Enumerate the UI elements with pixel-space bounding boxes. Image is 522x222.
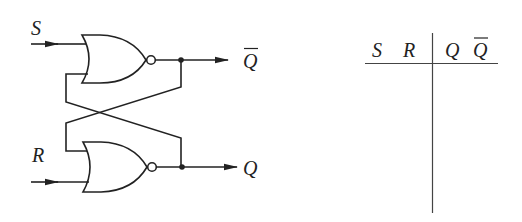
nor-gate-bottom-body [83,142,147,192]
sr-latch-figure: S Q Q R S R Q Q [0,0,522,222]
table-header-q: Q [445,39,460,61]
truth-table: S R Q Q [365,33,498,213]
output-q: Q [157,157,259,179]
table-header-s: S [372,39,382,61]
table-header-q-bar: Q [473,39,488,61]
output-q-bar-label: Q [243,50,258,72]
output-q-label: Q [243,157,258,179]
table-header-r: R [402,39,415,61]
nor-gate-top [82,35,155,83]
nor-gate-top-body [82,35,146,83]
input-r-label: R [31,144,44,166]
input-s-label: S [31,17,41,39]
junction-dot-bottom [179,164,185,170]
input-s: S [31,17,86,44]
output-q-bar: Q [156,49,259,73]
nor-gate-bottom-bubble [148,163,157,172]
nor-gate-top-bubble [147,56,156,65]
nor-gate-bottom [83,142,156,192]
input-r: R [31,144,89,182]
